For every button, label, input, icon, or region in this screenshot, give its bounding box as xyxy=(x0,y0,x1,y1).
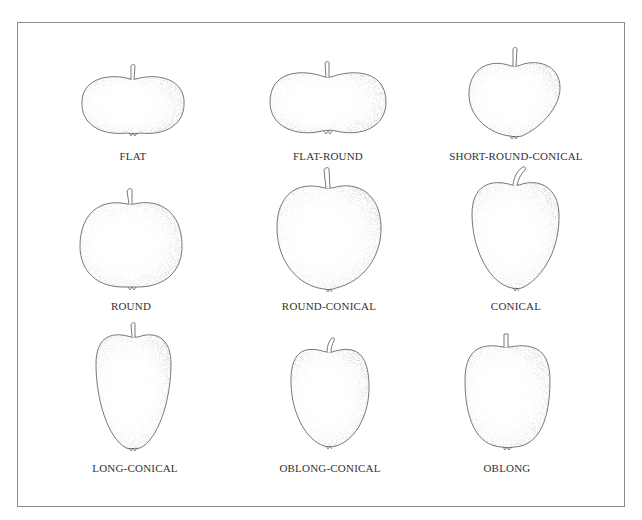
apple-flat-round-shape xyxy=(270,62,386,135)
stem-icon xyxy=(131,323,135,337)
apple-oblong-shape xyxy=(465,334,550,450)
apple-round-conical-shape xyxy=(277,168,381,292)
apple-conical-shape xyxy=(472,167,559,291)
apple-oblong-conical-shape xyxy=(291,338,369,449)
calyx-icon xyxy=(324,131,332,134)
stem-icon xyxy=(327,338,334,353)
label-oblong-conical: OBLONG-CONICAL xyxy=(230,462,430,474)
apple-short-round-conical-shape xyxy=(469,48,560,140)
label-short-round-conical: SHORT-ROUND-CONICAL xyxy=(416,150,616,162)
stem-icon xyxy=(513,167,525,186)
label-flat-round: FLAT-ROUND xyxy=(228,150,428,162)
label-long-conical: LONG-CONICAL xyxy=(35,462,235,474)
label-round-conical: ROUND-CONICAL xyxy=(229,300,429,312)
apple-flat-shape xyxy=(82,65,184,137)
apple-long-conical-shape xyxy=(96,323,171,451)
apple-shapes-canvas xyxy=(0,0,642,520)
label-flat: FLAT xyxy=(33,150,233,162)
stem-icon xyxy=(127,189,132,204)
stem-icon xyxy=(324,168,330,188)
stem-icon xyxy=(513,48,517,67)
apple-round-shape xyxy=(80,189,182,290)
stem-icon xyxy=(131,65,135,81)
label-round: ROUND xyxy=(31,300,231,312)
label-conical: CONICAL xyxy=(416,300,616,312)
calyx-icon xyxy=(128,287,136,290)
stem-icon xyxy=(504,334,508,347)
stem-icon xyxy=(325,62,329,78)
label-oblong: OBLONG xyxy=(407,462,607,474)
